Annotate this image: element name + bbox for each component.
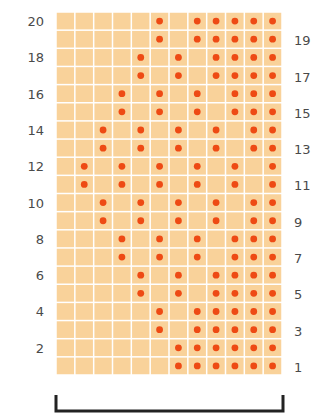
- grid-cell: [170, 31, 187, 48]
- stitch-dot: [269, 254, 276, 261]
- grid-cell: [132, 303, 149, 320]
- stitch-dot: [137, 145, 144, 152]
- stitch-dot: [269, 308, 276, 315]
- row-label: 6: [36, 268, 44, 283]
- stitch-dot: [213, 54, 220, 61]
- stitch-dot: [137, 72, 144, 79]
- grid-cell: [76, 140, 93, 157]
- knitting-chart: 2468101214161820 135791113151719: [0, 0, 321, 419]
- stitch-dot: [269, 344, 276, 351]
- stitch-dot: [232, 181, 239, 188]
- grid-cell: [170, 158, 187, 175]
- stitch-dot: [269, 127, 276, 134]
- stitch-dot: [269, 199, 276, 206]
- grid-cell: [113, 194, 130, 211]
- grid-cell: [151, 49, 168, 66]
- grid-cell: [94, 176, 111, 193]
- stitch-dot: [232, 363, 239, 370]
- stitch-dot: [119, 235, 126, 242]
- row-label: 12: [27, 159, 44, 174]
- grid-cell: [57, 31, 74, 48]
- stitch-dot: [156, 308, 163, 315]
- stitch-dot: [213, 199, 220, 206]
- stitch-dot: [250, 145, 257, 152]
- grid-cell: [132, 158, 149, 175]
- row-label: 1: [294, 360, 302, 375]
- stitch-dot: [175, 145, 182, 152]
- grid-cells: [57, 13, 282, 375]
- stitch-dot: [250, 290, 257, 297]
- stitch-dot: [269, 54, 276, 61]
- stitch-dot: [250, 344, 257, 351]
- grid-cell: [76, 104, 93, 121]
- stitch-dot: [232, 235, 239, 242]
- stitch-dot: [232, 344, 239, 351]
- stitch-dot: [213, 290, 220, 297]
- grid-cell: [113, 31, 130, 48]
- row-label: 2: [36, 341, 44, 356]
- stitch-dot: [137, 127, 144, 134]
- stitch-dot: [194, 308, 201, 315]
- grid-cell: [94, 231, 111, 248]
- grid-cell: [76, 358, 93, 375]
- row-labels-left: 2468101214161820: [27, 14, 44, 356]
- grid-cell: [132, 104, 149, 121]
- grid-cell: [76, 249, 93, 266]
- stitch-dot: [137, 290, 144, 297]
- stitch-dot: [156, 36, 163, 43]
- grid-cell: [57, 13, 74, 30]
- grid-cell: [57, 176, 74, 193]
- stitch-dot: [213, 308, 220, 315]
- grid-cell: [170, 13, 187, 30]
- stitch-dot: [194, 181, 201, 188]
- stitch-dot: [119, 254, 126, 261]
- grid-cell: [207, 85, 224, 102]
- grid-cell: [76, 285, 93, 302]
- grid-cell: [94, 104, 111, 121]
- stitch-dot: [194, 326, 201, 333]
- grid-cell: [113, 285, 130, 302]
- stitch-dot: [137, 272, 144, 279]
- grid-cell: [94, 303, 111, 320]
- stitch-dot: [175, 72, 182, 79]
- grid-cell: [57, 339, 74, 356]
- grid-cell: [113, 122, 130, 139]
- stitch-dot: [232, 72, 239, 79]
- stitch-dot: [156, 254, 163, 261]
- grid-cell: [76, 67, 93, 84]
- stitch-dot: [175, 54, 182, 61]
- row-label: 4: [36, 304, 44, 319]
- grid-cell: [57, 267, 74, 284]
- stitch-dot: [232, 272, 239, 279]
- stitch-dot: [232, 326, 239, 333]
- grid-cell: [57, 158, 74, 175]
- grid-cell: [170, 303, 187, 320]
- stitch-dot: [119, 181, 126, 188]
- grid-cell: [94, 358, 111, 375]
- grid-cell: [113, 13, 130, 30]
- grid-cell: [76, 267, 93, 284]
- grid-cell: [76, 13, 93, 30]
- grid-cell: [132, 13, 149, 30]
- stitch-dot: [213, 145, 220, 152]
- stitch-dot: [250, 127, 257, 134]
- stitch-dot: [213, 36, 220, 43]
- grid-cell: [189, 212, 206, 229]
- stitch-dot: [119, 163, 126, 170]
- grid-cell: [113, 321, 130, 338]
- repeat-bracket: [56, 395, 283, 411]
- stitch-dot: [250, 199, 257, 206]
- stitch-dot: [156, 18, 163, 25]
- grid-cell: [94, 267, 111, 284]
- stitch-dot: [100, 199, 107, 206]
- stitch-dot: [194, 254, 201, 261]
- grid-cell: [132, 31, 149, 48]
- stitch-dot: [194, 363, 201, 370]
- stitch-dot: [250, 217, 257, 224]
- grid-cell: [151, 339, 168, 356]
- stitch-dot: [232, 36, 239, 43]
- stitch-dot: [156, 163, 163, 170]
- grid-cell: [226, 194, 243, 211]
- stitch-dot: [175, 217, 182, 224]
- grid-cell: [57, 85, 74, 102]
